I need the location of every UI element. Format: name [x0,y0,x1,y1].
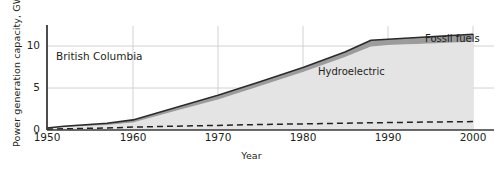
chart-figure: Power generation capacity, GW Year 10 5 … [0,0,503,172]
x-axis-title: Year [0,150,503,161]
x-tick-label-2000: 2000 [451,131,495,143]
y-tick-label-5: 5 [18,81,40,93]
chart-title: British Columbia [56,50,143,62]
x-tick-label-1970: 1970 [196,131,240,143]
y-tick-label-10: 10 [18,39,40,51]
x-tick-label-1960: 1960 [111,131,155,143]
x-tick-label-1980: 1980 [281,131,325,143]
series-label-fossil-fuels: Fossil fuels [425,33,480,44]
x-tick-label-1990: 1990 [366,131,410,143]
x-tick-label-1950: 1950 [25,131,69,143]
stacked-area-chart [0,0,503,172]
series-label-hydroelectric: Hydroelectric [318,66,385,77]
